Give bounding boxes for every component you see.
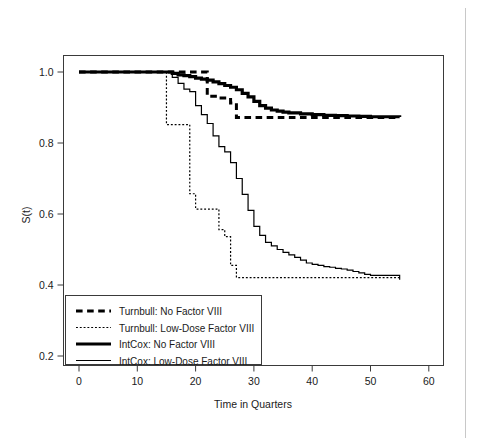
chart-legend: Turnbull: No Factor VIIITurnbull: Low-Do…: [66, 296, 262, 367]
survival-curve-figure: 0.20.40.60.81.0 0102030405060 S(t) Time …: [0, 0, 486, 446]
page-edge-line: [465, 8, 466, 438]
legend-label-0: Turnbull: No Factor VIII: [119, 306, 222, 317]
y-axis-ticks: 0.20.40.60.81.0: [39, 66, 64, 362]
y-tick-label: 1.0: [39, 66, 54, 78]
series-line-0: [79, 72, 400, 117]
x-tick-label: 20: [190, 375, 202, 387]
series-line-2: [79, 72, 400, 117]
chart-canvas: 0.20.40.60.81.0 0102030405060 S(t) Time …: [0, 0, 486, 446]
legend-label-2: IntCox: No Factor VIII: [119, 339, 215, 350]
y-axis-title: S(t): [20, 207, 32, 224]
x-tick-label: 30: [248, 375, 260, 387]
x-tick-label: 0: [76, 375, 82, 387]
series-group: [79, 72, 400, 280]
series-line-3: [79, 72, 400, 280]
x-tick-label: 60: [423, 375, 435, 387]
y-tick-label: 0.8: [39, 137, 54, 149]
y-tick-label: 0.4: [39, 279, 54, 291]
x-axis-title: Time in Quarters: [214, 398, 292, 410]
legend-label-1: Turnbull: Low-Dose Factor VIII: [119, 323, 254, 334]
x-tick-label: 50: [365, 375, 377, 387]
y-tick-label: 0.2: [39, 350, 54, 362]
legend-label-3: IntCox: Low-Dose Factor VIII: [119, 356, 247, 367]
series-line-1: [79, 72, 400, 278]
x-axis-ticks: 0102030405060: [76, 366, 435, 387]
x-tick-label: 40: [306, 375, 318, 387]
y-tick-label: 0.6: [39, 208, 54, 220]
x-tick-label: 10: [131, 375, 143, 387]
